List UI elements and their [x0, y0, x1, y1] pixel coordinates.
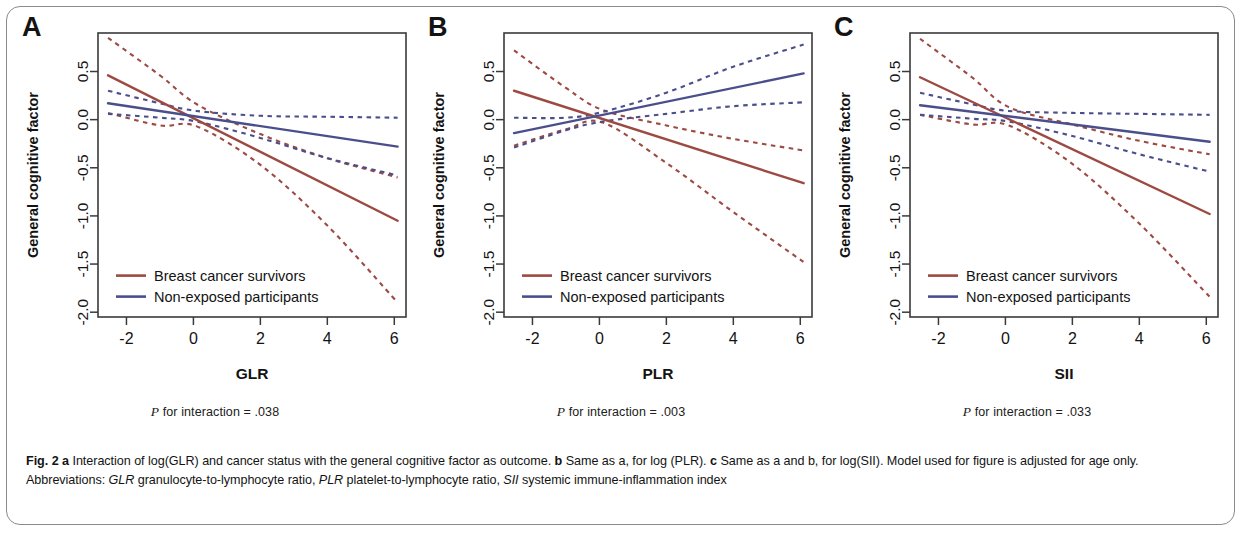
x-axis-title: SII	[1055, 365, 1074, 382]
legend-label: Breast cancer survivors	[966, 268, 1118, 284]
panel-c: C -202460.50.0-0.5-1.0-1.5-2.0General co…	[824, 0, 1230, 440]
x-tick-label: -2	[119, 330, 133, 347]
legend-label: Non-exposed participants	[154, 289, 318, 305]
regression-line	[920, 105, 1210, 142]
confidence-band-lower	[514, 121, 804, 262]
pvalue-text-c: for interaction = .033	[971, 405, 1091, 419]
caption-part-1: a	[62, 454, 69, 468]
y-tick-label: 0.5	[480, 61, 497, 83]
legend-label: Breast cancer survivors	[154, 268, 306, 284]
x-tick-label: 6	[1202, 330, 1211, 347]
y-tick-label: -1.0	[74, 202, 91, 229]
y-axis-title: General cognitive factor	[837, 92, 853, 258]
y-tick-label: -1.5	[74, 251, 91, 278]
x-tick-label: 2	[256, 330, 265, 347]
legend-item-non-exposed: Non-exposed participants	[116, 289, 318, 305]
x-tick-label: 4	[1135, 330, 1144, 347]
x-tick-label: 2	[662, 330, 671, 347]
panel-b: B -202460.50.0-0.5-1.0-1.5-2.0General co…	[418, 0, 824, 440]
caption-part-4: Same as a, for log (PLR).	[562, 454, 710, 468]
regression-line	[514, 91, 804, 183]
legend-item-non-exposed: Non-exposed participants	[928, 289, 1130, 305]
legend-item-survivors: Breast cancer survivors	[928, 268, 1118, 284]
figure-root: A -202460.50.0-0.5-1.0-1.5-2.0General co…	[0, 0, 1243, 534]
legend-item-survivors: Breast cancer survivors	[116, 268, 306, 284]
y-tick-label: 0.5	[886, 61, 903, 83]
x-tick-label: -2	[525, 330, 539, 347]
pvalue-text-a: for interaction = .038	[159, 405, 279, 419]
y-tick-label: -2.0	[886, 298, 903, 325]
figure-caption: Fig. 2 a Interaction of log(GLR) and can…	[26, 452, 1216, 490]
x-axis-title: PLR	[643, 365, 674, 382]
confidence-band-upper	[108, 38, 398, 178]
y-tick-label: 0.0	[886, 108, 903, 130]
pvalue-text-b: for interaction = .003	[565, 405, 685, 419]
y-tick-label: 0.0	[480, 108, 497, 130]
plot-b: -202460.50.0-0.5-1.0-1.5-2.0General cogn…	[418, 0, 824, 400]
x-tick-label: 6	[796, 330, 805, 347]
y-tick-label: 0.5	[74, 61, 91, 83]
confidence-band-upper	[514, 50, 804, 150]
caption-part-12: systemic immune-inflammation index	[519, 473, 727, 487]
legend-label: Breast cancer survivors	[560, 268, 712, 284]
caption-part-8: granulocyte-to-lymphocyte ratio,	[134, 473, 319, 487]
caption-part-10: platelet-to-lymphocyte ratio,	[343, 473, 503, 487]
legend-label: Non-exposed participants	[560, 289, 724, 305]
pvalue-p-symbol-c: P	[963, 404, 971, 419]
caption-part-5: c	[710, 454, 717, 468]
caption-part-7: GLR	[109, 473, 135, 487]
x-tick-label: 4	[729, 330, 738, 347]
x-tick-label: 2	[1068, 330, 1077, 347]
plot-c: -202460.50.0-0.5-1.0-1.5-2.0General cogn…	[824, 0, 1230, 400]
y-axis-title: General cognitive factor	[25, 92, 41, 258]
caption-part-2: Interaction of log(GLR) and cancer statu…	[69, 454, 555, 468]
y-tick-label: -2.0	[74, 298, 91, 325]
pvalue-p-symbol-b: P	[557, 404, 565, 419]
pvalue-annotation-b: P for interaction = .003	[418, 404, 824, 420]
legend-item-survivors: Breast cancer survivors	[522, 268, 712, 284]
y-tick-label: 0.0	[74, 108, 91, 130]
pvalue-p-symbol-a: P	[151, 404, 159, 419]
pvalue-annotation-a: P for interaction = .038	[12, 404, 418, 420]
regression-line	[108, 103, 398, 146]
caption-part-9: PLR	[319, 473, 343, 487]
x-tick-label: 6	[390, 330, 399, 347]
y-tick-label: -1.5	[886, 251, 903, 278]
panels-container: A -202460.50.0-0.5-1.0-1.5-2.0General co…	[0, 0, 1243, 440]
y-tick-label: -1.0	[480, 202, 497, 229]
regression-line	[108, 75, 398, 220]
caption-part-0: Fig. 2	[26, 454, 62, 468]
panel-a: A -202460.50.0-0.5-1.0-1.5-2.0General co…	[12, 0, 418, 440]
pvalue-annotation-c: P for interaction = .033	[824, 404, 1230, 420]
caption-part-11: SII	[503, 473, 518, 487]
confidence-band-upper	[108, 91, 398, 118]
x-tick-label: 0	[1001, 330, 1010, 347]
y-tick-label: -0.5	[480, 154, 497, 181]
x-tick-label: 0	[595, 330, 604, 347]
y-tick-label: -1.0	[886, 202, 903, 229]
y-axis-title: General cognitive factor	[431, 92, 447, 258]
plot-a: -202460.50.0-0.5-1.0-1.5-2.0General cogn…	[12, 0, 418, 400]
x-tick-label: 0	[189, 330, 198, 347]
x-axis-title: GLR	[236, 365, 269, 382]
y-tick-label: -1.5	[480, 251, 497, 278]
x-tick-label: -2	[931, 330, 945, 347]
x-tick-label: 4	[323, 330, 332, 347]
y-tick-label: -0.5	[886, 154, 903, 181]
y-tick-label: -2.0	[480, 298, 497, 325]
y-tick-label: -0.5	[74, 154, 91, 181]
legend-label: Non-exposed participants	[966, 289, 1130, 305]
legend-item-non-exposed: Non-exposed participants	[522, 289, 724, 305]
